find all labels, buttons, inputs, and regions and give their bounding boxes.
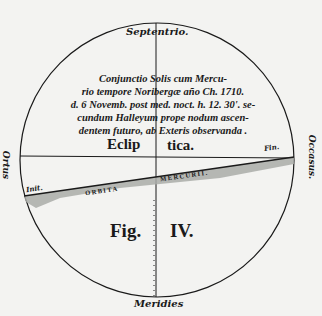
caption: Conjunctio Solis cum Mercu- rio tempore …	[58, 72, 268, 137]
caption-line: cundum Halleyum prope nodum ascen-	[58, 111, 268, 124]
label-west-ortus: Ortus	[1, 151, 11, 179]
caption-line: Conjunctio Solis cum Mercu-	[58, 72, 268, 85]
label-ecliptic-left: Eclip	[107, 136, 140, 153]
label-north: Septentrio.	[126, 26, 189, 37]
label-south: Meridies	[134, 298, 183, 309]
caption-line: d. 6 Novemb. post med. noct. h. 12. 30'.…	[58, 98, 268, 111]
caption-line: rio tempore Noribergæ año Ch. 1710.	[58, 85, 268, 98]
label-fig-number: IV.	[170, 220, 193, 242]
label-fig: Fig.	[110, 220, 141, 242]
label-ecliptic-right: tica.	[167, 137, 194, 154]
orbit-shading	[24, 157, 294, 208]
caption-line: dentem futuro, ab Exteris observanda .	[58, 124, 268, 137]
ecliptic-line	[20, 156, 294, 158]
label-east-occasus: Occasus.	[307, 135, 317, 179]
horizon-circle	[20, 23, 294, 297]
diagram-drawing	[0, 0, 322, 316]
